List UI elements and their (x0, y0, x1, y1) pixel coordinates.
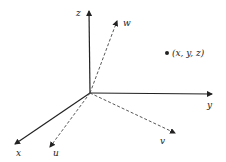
point-marker (165, 51, 169, 55)
axes-diagram: z y x w v u (x, y, z) (0, 0, 226, 162)
u-label: u (53, 148, 59, 158)
v-label: v (160, 136, 165, 146)
w-axis (90, 21, 117, 93)
point-label: (x, y, z) (172, 48, 205, 58)
y-label: y (206, 100, 213, 110)
x-label: x (16, 148, 21, 158)
z-axis (89, 11, 90, 93)
x-axis (15, 93, 90, 144)
u-axis (50, 93, 90, 147)
v-axis (90, 93, 175, 133)
z-label: z (75, 8, 81, 18)
y-axis (90, 93, 212, 94)
w-label: w (123, 18, 131, 28)
